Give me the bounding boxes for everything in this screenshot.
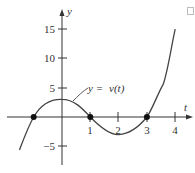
y-tick-label: 15 [44,23,56,35]
x-tick-label: 2 [115,124,121,136]
y-tick-label: −5 [43,140,55,152]
curve-label: y =v(t) [87,82,125,95]
label-leader-line [73,88,88,101]
zero-point-dot [144,114,150,120]
y-axis-arrow-icon [60,9,65,16]
t-axis-arrow-icon [186,115,193,120]
y-axis-label: y [66,5,72,17]
corner-box-icon [187,7,194,15]
x-tick-label: 3 [144,124,150,136]
t-axis-label: t [184,101,188,113]
y-tick-label: 5 [50,82,56,94]
zero-point-dot [31,114,37,120]
y-tick-label: 10 [44,52,56,64]
velocity-graph: y t 15 10 5 −5 1 2 3 4 y =v(t) [0,0,195,173]
x-tick-label: 1 [87,124,93,136]
zero-point-dot [87,114,93,120]
x-tick-label: 4 [172,124,178,136]
